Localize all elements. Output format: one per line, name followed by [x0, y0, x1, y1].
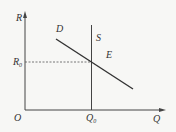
y-axis-label: R	[15, 12, 22, 23]
x-axis-label: Q	[153, 113, 161, 124]
supply-label: S	[96, 32, 101, 43]
equilibrium-point-label: E	[105, 49, 112, 60]
origin-label: O	[14, 112, 21, 123]
demand-label: D	[55, 23, 64, 34]
supply-demand-diagram: R D S E R0 O Q0 Q	[0, 0, 176, 132]
